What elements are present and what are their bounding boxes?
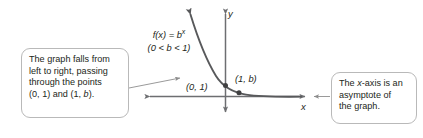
callout-line: left to right, passing — [29, 66, 122, 78]
leader-line-left — [129, 78, 180, 88]
point-marker-y-intercept — [223, 83, 228, 88]
function-exponent: x — [182, 28, 186, 35]
callout-line: (0, 1) and (1, b). — [29, 89, 122, 101]
function-equation-line: f(x) = bx — [132, 26, 206, 42]
y-axis-label: y — [228, 8, 233, 19]
callout-line: through the points — [29, 77, 122, 89]
callout-line: The x-axis is an — [339, 78, 410, 90]
point-marker-one-b — [237, 90, 242, 95]
x-axis-label: x — [301, 101, 306, 112]
callout-line: asymptote of — [339, 90, 410, 102]
function-equation-text: f(x) = b — [153, 30, 182, 40]
callout-line: The graph falls from — [29, 54, 122, 66]
point-label-one-b: (1, b) — [235, 74, 257, 84]
function-condition: (0 < b < 1) — [132, 42, 206, 55]
figure-canvas: f(x) = bx (0 < b < 1) (0, 1) (1, b) y x … — [0, 0, 423, 138]
callout-asymptote-note: The x-axis is an asymptote of the graph. — [331, 72, 417, 124]
callout-line: the graph. — [339, 101, 410, 113]
callout-graph-behavior: The graph falls from left to right, pass… — [21, 48, 129, 118]
point-label-y-intercept: (0, 1) — [186, 82, 208, 92]
function-equation-label: f(x) = bx (0 < b < 1) — [132, 26, 206, 54]
